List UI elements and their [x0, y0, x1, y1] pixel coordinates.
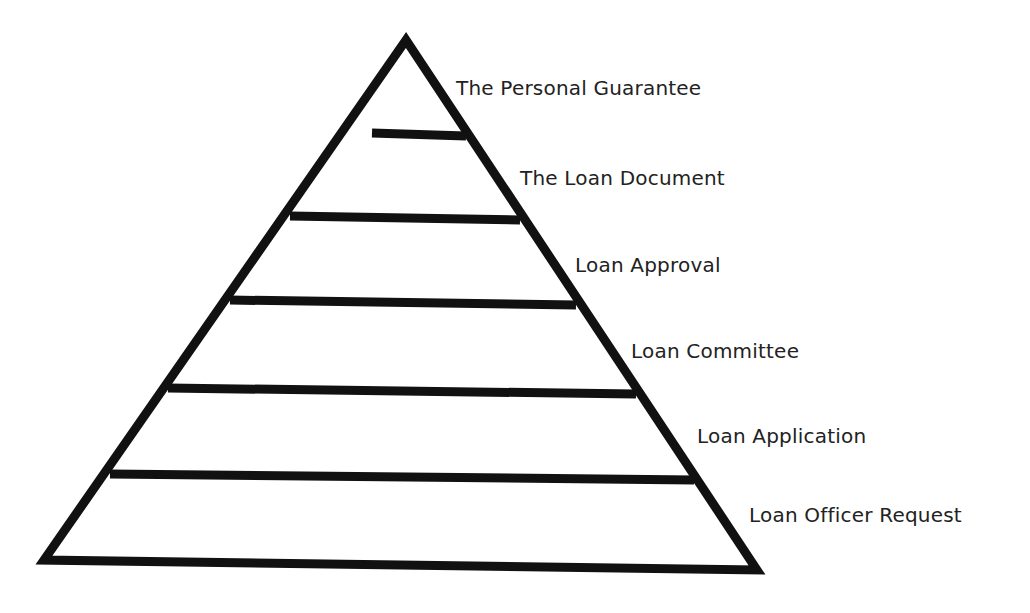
tier-divider-2: [290, 216, 520, 220]
level-label-loan-approval: Loan Approval: [575, 255, 721, 275]
tier-divider-1: [372, 133, 466, 136]
tier-divider-4: [168, 388, 636, 394]
level-label-loan-committee: Loan Committee: [631, 341, 799, 361]
tier-divider-5: [110, 474, 694, 480]
tier-divider-3: [230, 300, 576, 305]
level-label-loan-officer-request: Loan Officer Request: [749, 505, 962, 525]
level-label-loan-application: Loan Application: [697, 426, 866, 446]
level-label-loan-document: The Loan Document: [520, 168, 725, 188]
level-label-personal-guarantee: The Personal Guarantee: [456, 78, 701, 98]
